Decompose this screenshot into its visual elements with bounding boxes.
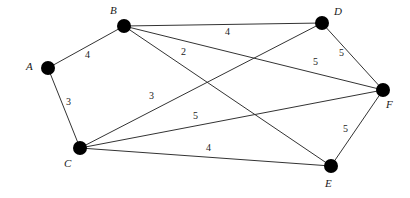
graph-node-a[interactable] <box>41 61 55 75</box>
edge-weight-d-f: 5 <box>339 48 344 58</box>
node-label-b: B <box>110 5 117 16</box>
graph-edge-a-b <box>48 26 124 68</box>
graph-diagram-canvas: 4342535455ABCDEF <box>0 0 410 198</box>
graph-edge-e-f <box>331 90 383 166</box>
graph-svg <box>0 0 410 198</box>
graph-node-b[interactable] <box>117 19 131 33</box>
edge-weight-c-d: 3 <box>149 91 154 101</box>
graph-node-d[interactable] <box>315 16 329 30</box>
graph-edge-a-c <box>48 68 80 148</box>
graph-edge-d-f <box>322 23 383 90</box>
graph-node-e[interactable] <box>324 159 338 173</box>
node-label-f: F <box>386 99 393 110</box>
graph-node-f[interactable] <box>376 83 390 97</box>
edges-layer <box>48 23 383 166</box>
node-label-c: C <box>64 158 71 169</box>
edge-weight-b-d: 4 <box>225 27 230 37</box>
node-label-a: A <box>26 61 33 72</box>
edge-weight-c-e: 4 <box>206 143 211 153</box>
edge-weight-c-f: 5 <box>313 57 318 67</box>
graph-edge-c-d <box>80 23 322 148</box>
node-label-d: D <box>334 6 342 17</box>
graph-node-c[interactable] <box>73 141 87 155</box>
edge-weight-a-c: 3 <box>66 97 71 107</box>
edge-weight-e-f: 5 <box>343 124 348 134</box>
graph-edge-b-e <box>124 26 331 166</box>
edge-weight-b-e: 5 <box>193 111 198 121</box>
edge-weight-b-f: 2 <box>181 47 186 57</box>
graph-edge-b-d <box>124 23 322 26</box>
edge-weight-a-b: 4 <box>85 50 90 60</box>
node-label-e: E <box>325 178 332 189</box>
